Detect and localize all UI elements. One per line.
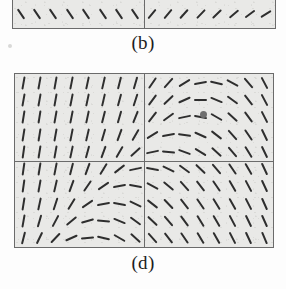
- orientation-tick: [162, 113, 174, 122]
- orientation-tick: [53, 111, 57, 124]
- panel-d-orientation-field: [14, 73, 274, 248]
- orientation-tick: [244, 94, 254, 105]
- orientation-tick: [147, 112, 157, 123]
- orientation-tick: [17, 9, 25, 20]
- orientation-tick: [21, 93, 25, 106]
- orientation-tick: [244, 111, 253, 123]
- orientation-tick: [97, 202, 110, 206]
- orientation-tick: [163, 233, 173, 244]
- orientation-tick: [245, 163, 253, 175]
- orientation-tick: [244, 77, 254, 88]
- orientation-tick: [229, 215, 237, 227]
- orientation-tick: [179, 181, 189, 192]
- orientation-tick: [180, 198, 190, 209]
- panel-b-vertical-divider: [144, 0, 145, 28]
- orientation-tick: [163, 198, 173, 209]
- orientation-tick: [145, 167, 158, 171]
- orientation-tick: [210, 80, 223, 85]
- orientation-tick: [53, 163, 57, 176]
- orientation-tick: [227, 95, 239, 104]
- orientation-tick: [261, 76, 269, 88]
- orientation-tick: [21, 197, 25, 210]
- orientation-tick: [147, 9, 156, 19]
- orientation-tick: [101, 76, 106, 89]
- orientation-tick: [196, 198, 205, 210]
- orientation-tick: [195, 164, 206, 174]
- orientation-tick: [229, 180, 237, 192]
- orientation-tick: [194, 81, 207, 85]
- orientation-tick: [180, 215, 189, 227]
- orientation-tick: [178, 96, 191, 103]
- orientation-tick: [116, 146, 124, 158]
- orientation-tick: [82, 9, 90, 20]
- orientation-tick: [52, 197, 58, 210]
- panel-b-caption: (b): [0, 32, 286, 54]
- orientation-tick: [147, 216, 158, 226]
- orientation-tick: [178, 115, 191, 120]
- orientation-tick: [178, 165, 190, 174]
- orientation-tick: [21, 128, 25, 141]
- orientation-tick: [211, 147, 222, 157]
- orientation-tick: [53, 180, 58, 193]
- scan-smudge-artifact: [8, 44, 12, 48]
- orientation-tick: [21, 214, 25, 227]
- orientation-tick: [148, 77, 157, 89]
- orientation-tick: [21, 111, 25, 124]
- orientation-tick: [53, 93, 57, 106]
- orientation-tick: [146, 183, 158, 191]
- orientation-tick: [69, 76, 73, 89]
- orientation-tick: [37, 145, 41, 158]
- panel-b-orientation-field: [12, 0, 276, 29]
- orientation-tick: [162, 132, 175, 136]
- orientation-tick: [69, 93, 73, 106]
- orientation-tick: [114, 234, 126, 242]
- orientation-tick: [261, 232, 268, 245]
- orientation-tick: [69, 128, 73, 141]
- orientation-tick: [245, 146, 254, 158]
- orientation-tick: [85, 128, 90, 141]
- orientation-tick: [133, 76, 139, 89]
- orientation-tick: [81, 218, 94, 224]
- orientation-tick: [69, 111, 73, 124]
- orientation-tick: [194, 99, 207, 101]
- orientation-tick: [117, 93, 122, 106]
- orientation-tick: [245, 232, 252, 245]
- orientation-tick: [227, 112, 238, 122]
- orientation-tick: [228, 10, 238, 19]
- orientation-tick: [65, 235, 78, 242]
- orientation-tick: [245, 180, 253, 192]
- orientation-tick: [178, 78, 190, 87]
- orientation-tick: [245, 215, 252, 228]
- orientation-tick: [261, 128, 268, 141]
- orientation-tick: [178, 149, 191, 155]
- orientation-tick: [229, 232, 237, 244]
- orientation-tick: [131, 9, 139, 20]
- orientation-tick: [147, 233, 157, 244]
- orientation-tick: [162, 150, 175, 153]
- panel-d-horizontal-divider: [15, 161, 273, 162]
- orientation-tick: [145, 150, 158, 155]
- orientation-tick: [180, 232, 189, 244]
- orientation-tick: [117, 111, 123, 124]
- orientation-tick: [53, 128, 57, 141]
- orientation-tick: [35, 232, 42, 245]
- orientation-tick: [85, 93, 90, 106]
- orientation-tick: [196, 9, 206, 19]
- orientation-tick: [114, 164, 125, 174]
- orientation-tick: [162, 165, 175, 172]
- orientation-tick: [84, 163, 90, 176]
- orientation-tick: [132, 128, 140, 140]
- orientation-tick: [66, 9, 74, 20]
- orientation-tick: [85, 145, 90, 158]
- orientation-tick: [81, 237, 94, 240]
- orientation-tick: [36, 215, 42, 228]
- orientation-tick: [101, 128, 107, 141]
- orientation-tick: [261, 146, 268, 159]
- orientation-tick: [261, 111, 269, 123]
- orientation-tick: [69, 145, 74, 158]
- orientation-tick: [213, 232, 221, 244]
- orientation-tick: [228, 163, 237, 175]
- orientation-tick: [194, 148, 206, 157]
- orientation-tick: [261, 215, 268, 228]
- orientation-tick: [37, 76, 41, 89]
